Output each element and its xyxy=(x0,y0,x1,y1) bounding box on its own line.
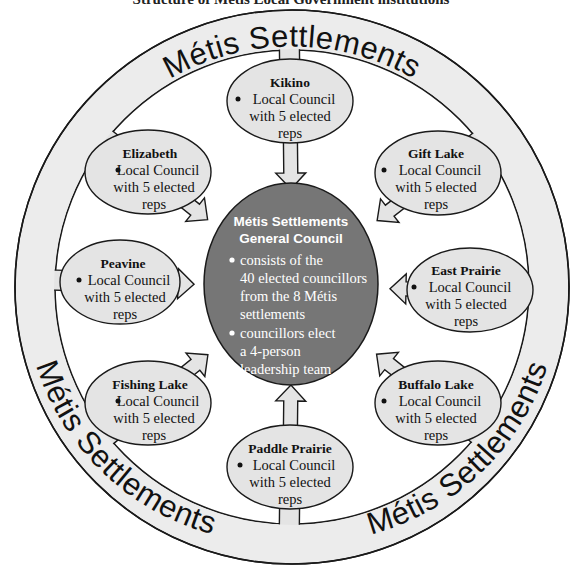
node-line-2: with 5 elected xyxy=(113,179,195,195)
node-name: Fishing Lake xyxy=(112,377,187,392)
node-name: Kikino xyxy=(270,75,310,90)
node-line-2: with 5 elected xyxy=(395,179,477,195)
council-bullet-2-line-2: a 4-person xyxy=(240,343,302,359)
council-bullet-2-line-3: leadership team xyxy=(240,361,332,377)
node-line-1: Local Council xyxy=(429,279,512,295)
node-line-2: with 5 elected xyxy=(84,289,166,305)
general-council-title-line1: Métis Settlements xyxy=(234,214,349,229)
bullet-icon xyxy=(382,168,387,173)
node-gift-lake: Gift Lake Local Council with 5 elected r… xyxy=(375,131,501,215)
council-bullet-1-line-3: from the 8 Métis xyxy=(240,288,337,304)
node-name: Peavine xyxy=(101,256,146,271)
bullet-icon xyxy=(229,330,234,335)
node-line-3: reps xyxy=(424,196,449,212)
council-bullet-2-line-1: councillors elect xyxy=(240,325,335,341)
node-line-3: reps xyxy=(278,491,303,507)
general-council: Métis Settlements General Council consis… xyxy=(204,183,378,385)
node-line-2: with 5 elected xyxy=(425,296,507,312)
node-line-2: with 5 elected xyxy=(249,474,331,490)
bullet-icon xyxy=(412,285,417,290)
node-line-3: reps xyxy=(278,125,303,141)
bullet-icon xyxy=(229,257,234,262)
node-line-3: reps xyxy=(113,306,138,322)
node-line-1: Local Council xyxy=(117,393,200,409)
node-paddle-prairie: Paddle Prairie Local Council with 5 elec… xyxy=(227,425,353,509)
node-line-1: Local Council xyxy=(253,457,336,473)
node-elizabeth: Elizabeth Local Council with 5 elected r… xyxy=(85,130,211,214)
node-name: Elizabeth xyxy=(123,146,178,161)
node-line-3: reps xyxy=(454,313,479,329)
node-line-2: with 5 elected xyxy=(249,108,331,124)
node-line-3: reps xyxy=(142,427,167,443)
node-peavine: Peavine Local Council with 5 elected rep… xyxy=(60,240,180,324)
council-bullet-1-line-2: 40 elected councillors xyxy=(240,270,368,286)
bullet-icon xyxy=(236,97,241,102)
node-line-3: reps xyxy=(142,196,167,212)
node-fishing-lake: Fishing Lake Local Council with 5 electe… xyxy=(85,361,211,445)
bullet-icon xyxy=(382,399,387,404)
node-kikino: Kikino Local Council with 5 elected reps xyxy=(227,59,353,143)
node-east-prairie: East Prairie Local Council with 5 electe… xyxy=(407,248,533,332)
council-bullet-1-line-1: consists of the xyxy=(240,252,323,268)
node-line-1: Local Council xyxy=(117,162,200,178)
node-line-3: reps xyxy=(424,427,449,443)
node-name: East Prairie xyxy=(431,263,500,278)
node-line-1: Local Council xyxy=(399,162,482,178)
council-bullet-1-line-4: settlements xyxy=(240,306,306,322)
diagram-title: Structure of Métis Local Government inst… xyxy=(133,0,450,7)
node-line-1: Local Council xyxy=(399,393,482,409)
node-name: Paddle Prairie xyxy=(248,441,332,456)
node-line-2: with 5 elected xyxy=(395,410,477,426)
bullet-icon xyxy=(77,278,82,283)
general-council-title-line2: General Council xyxy=(239,231,343,246)
node-name: Buffalo Lake xyxy=(398,377,473,392)
settlements-structure-diagram: Structure of Métis Local Government inst… xyxy=(0,0,583,586)
node-name: Gift Lake xyxy=(408,146,464,161)
node-line-1: Local Council xyxy=(88,272,171,288)
node-line-2: with 5 elected xyxy=(113,410,195,426)
node-line-1: Local Council xyxy=(253,91,336,107)
bullet-icon xyxy=(238,463,243,468)
